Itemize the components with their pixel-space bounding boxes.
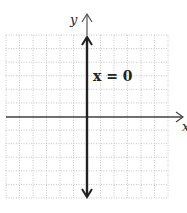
x-axis-label: x <box>182 119 187 134</box>
x-axis <box>6 112 183 122</box>
y-axis <box>82 14 92 35</box>
coordinate-plane: x y x = 0 <box>0 0 187 213</box>
line-label: x = 0 <box>93 68 133 84</box>
y-axis-label: y <box>69 12 78 27</box>
